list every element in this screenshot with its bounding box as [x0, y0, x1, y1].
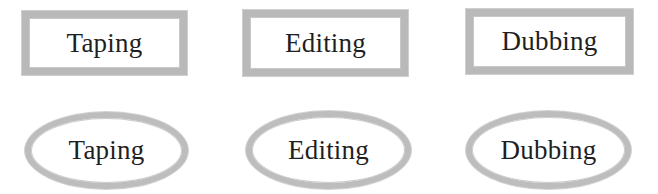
- ellipse-taping-label: Taping: [69, 137, 145, 164]
- ellipse-editing-label: Editing: [288, 137, 369, 164]
- ellipse-dubbing-label: Dubbing: [501, 137, 597, 164]
- rect-taping: Taping: [22, 11, 187, 75]
- rect-editing-label: Editing: [285, 30, 366, 57]
- ellipse-editing: Editing: [246, 111, 411, 189]
- rect-dubbing-label: Dubbing: [502, 28, 598, 55]
- ellipse-taping: Taping: [25, 112, 188, 189]
- rect-dubbing: Dubbing: [466, 9, 633, 74]
- rect-taping-label: Taping: [67, 30, 143, 57]
- rect-editing: Editing: [243, 10, 408, 76]
- ellipse-dubbing: Dubbing: [466, 111, 631, 189]
